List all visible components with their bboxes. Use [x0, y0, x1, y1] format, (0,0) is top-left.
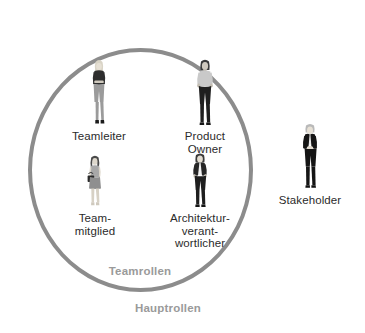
- product-owner-figure-icon: [150, 56, 260, 128]
- teamleiter-figure-icon: [44, 56, 154, 128]
- role-teammitglied[interactable]: Team- mitglied: [40, 152, 150, 237]
- role-product-owner[interactable]: Product Owner: [150, 56, 260, 155]
- zone-caption-hauptrollen: Hauptrollen: [88, 302, 248, 314]
- role-stakeholder[interactable]: Stakeholder: [255, 120, 365, 207]
- architekturverantwortlicher-figure-icon: [145, 152, 255, 210]
- role-teamleiter[interactable]: Teamleiter: [44, 56, 154, 143]
- role-label-architekturverantwortlicher: Architektur- verant- wortlicher: [145, 212, 255, 250]
- teammitglied-figure-icon: [40, 152, 150, 210]
- stakeholder-figure-icon: [255, 120, 365, 192]
- role-label-stakeholder: Stakeholder: [255, 194, 365, 207]
- zone-caption-teamrollen: Teamrollen: [60, 265, 220, 277]
- role-label-teammitglied: Team- mitglied: [40, 212, 150, 237]
- roles-diagram: Teamleiter: [0, 0, 365, 333]
- role-label-teamleiter: Teamleiter: [44, 130, 154, 143]
- role-architekturverantwortlicher[interactable]: Architektur- verant- wortlicher: [145, 152, 255, 250]
